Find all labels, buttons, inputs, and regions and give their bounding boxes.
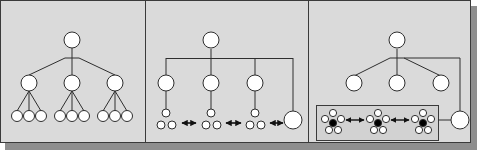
cluster-node: [246, 121, 254, 129]
leaf-node: [98, 111, 109, 122]
hub-node: [374, 119, 381, 126]
mid-node: [433, 75, 449, 91]
mid-node: [158, 75, 174, 91]
diagram-canvas: [0, 0, 477, 154]
leaf-node: [24, 111, 35, 122]
cluster-node: [168, 121, 176, 129]
peer-node: [451, 111, 469, 129]
diagram-figure: [0, 0, 477, 154]
root-node: [203, 32, 219, 48]
mid-node: [21, 75, 37, 91]
mid-node: [107, 75, 123, 91]
leaf-node: [67, 111, 78, 122]
leaf-node: [36, 111, 47, 122]
cluster-node: [207, 109, 215, 117]
peer-node: [284, 111, 302, 129]
cluster-node: [257, 121, 265, 129]
leaf-node: [79, 111, 90, 122]
leaf-node: [110, 111, 121, 122]
cluster-node: [157, 121, 165, 129]
cluster-node: [162, 109, 170, 117]
hub-node: [329, 119, 336, 126]
hub-node: [419, 119, 426, 126]
cluster-node: [251, 109, 259, 117]
leaf-node: [55, 111, 66, 122]
cluster-node: [202, 121, 210, 129]
leaf-node: [122, 111, 133, 122]
root-node: [64, 32, 80, 48]
root-node: [389, 32, 405, 48]
leaf-node: [12, 111, 23, 122]
mid-node: [64, 75, 80, 91]
mid-node: [346, 75, 362, 91]
mid-node: [389, 75, 405, 91]
cluster-node: [213, 121, 221, 129]
mid-node: [203, 75, 219, 91]
mid-node: [247, 75, 263, 91]
